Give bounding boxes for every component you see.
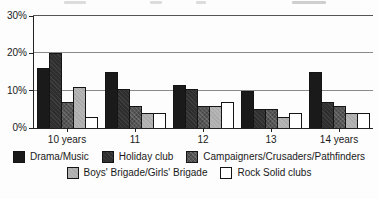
y-axis-label: 10% [0,86,27,96]
cropped-title-remnant [150,1,162,4]
legend-swatch [102,151,114,163]
legend-row-1: Drama/MusicHoliday clubCampaigners/Crusa… [13,151,365,163]
x-axis-label: 11 [130,134,140,145]
legend-item-boys-brigade-girls-brigade: Boys' Brigade/Girls' Brigade [67,167,208,179]
x-axis-label: 14 years [320,134,358,145]
x-axis-tick [271,129,272,132]
cropped-title-remnant [64,1,86,4]
x-axis-label: 12 [197,134,208,145]
x-axis-tick [135,129,136,132]
legend-item-campaigners-crusaders-pathfinders: Campaigners/Crusaders/Pathfinders [186,151,365,163]
cropped-title-remnant [196,1,206,4]
y-axis-tick [29,90,33,91]
legend-swatch [13,151,25,163]
category-group-1 [33,16,101,128]
legend-label: Drama/Music [30,151,89,163]
legend-swatch [67,167,79,179]
legend-label: Campaigners/Crusaders/Pathfinders [203,151,365,163]
legend-item-rock-solid-clubs: Rock Solid clubs [220,167,311,179]
legend: Drama/MusicHoliday clubCampaigners/Crusa… [0,151,378,179]
x-axis-tick [67,129,68,132]
x-axis-tick [203,129,204,132]
category-group-5 [305,16,373,128]
y-axis-line [33,16,34,128]
legend-row-2: Boys' Brigade/Girls' BrigadeRock Solid c… [67,167,312,179]
y-axis-tick [29,128,33,129]
bar-rock-solid-clubs [289,113,302,128]
x-axis-tick [339,129,340,132]
cropped-title-remnant [292,1,326,4]
plot-area [33,16,373,128]
legend-label: Rock Solid clubs [237,167,311,179]
y-axis-tick [29,16,33,17]
bar-rock-solid-clubs [221,102,234,128]
y-axis-label: 0% [0,123,27,133]
y-axis-tick [29,53,33,54]
participation-bar-chart: Drama/MusicHoliday clubCampaigners/Crusa… [0,0,378,199]
bar-rock-solid-clubs [85,117,98,128]
legend-item-holiday-club: Holiday club [102,151,173,163]
bar-rock-solid-clubs [153,113,166,128]
legend-swatch [220,167,232,179]
legend-item-drama-music: Drama/Music [13,151,89,163]
bar-rock-solid-clubs [357,113,370,128]
legend-swatch [186,151,198,163]
legend-label: Holiday club [119,151,173,163]
category-group-2 [101,16,169,128]
y-axis-label: 20% [0,48,27,58]
legend-label: Boys' Brigade/Girls' Brigade [84,167,208,179]
x-axis-label: 10 years [48,134,86,145]
x-axis-label: 13 [265,134,276,145]
category-group-4 [237,16,305,128]
y-axis-label: 30% [0,11,27,21]
category-group-3 [169,16,237,128]
